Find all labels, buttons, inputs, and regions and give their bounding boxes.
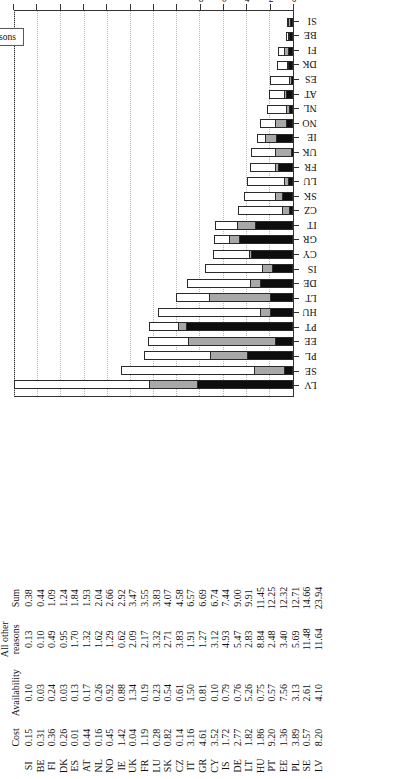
bar-segment-availability	[179, 323, 187, 330]
x-axis-label-se: SE	[302, 364, 317, 379]
table-row: IE1.420.880.622.92	[116, 581, 128, 779]
cell-country: DE	[232, 753, 244, 779]
bar-segment-cost	[291, 19, 292, 26]
header-sum: Sum	[0, 581, 23, 616]
x-axis-tick	[294, 364, 299, 379]
stacked-bar[interactable]	[247, 177, 293, 186]
y-axis-tick-label: 2	[268, 0, 273, 4]
stacked-bar[interactable]	[286, 32, 293, 41]
table-row: IT3.161.501.916.57	[185, 581, 197, 779]
stacked-bar[interactable]	[269, 90, 293, 99]
bar-segment-all-other-reasons	[271, 77, 290, 84]
bar-segment-all-other-reasons	[252, 149, 276, 156]
stacked-bar[interactable]	[214, 235, 293, 244]
cell-cost: 0.26	[58, 722, 70, 752]
stacked-bar[interactable]	[278, 47, 293, 56]
stacked-bar[interactable]	[14, 380, 293, 389]
stacked-bar[interactable]	[158, 308, 293, 317]
cell-cost: 0.01	[69, 722, 81, 752]
cell-availability: 7.56	[278, 663, 290, 722]
bar-slot	[15, 218, 293, 233]
x-axis-label-lu: LU	[302, 174, 317, 189]
bar-segment-all-other-reasons	[177, 294, 210, 301]
x-axis-label-text: SE	[302, 366, 317, 377]
y-axis-tick-label: 24	[9, 0, 19, 1]
bar-segment-cost	[248, 352, 292, 359]
header-cost: Cost	[0, 722, 23, 752]
legend-label: All other reasons	[0, 32, 16, 42]
stacked-bar[interactable]	[149, 322, 293, 331]
stacked-bar[interactable]	[176, 293, 293, 302]
stacked-bar[interactable]	[287, 18, 293, 27]
x-axis-label-text: CY	[302, 249, 317, 260]
bar-segment-availability	[276, 149, 292, 156]
x-axis-label-no: NO	[302, 116, 317, 131]
bar-segment-all-other-reasons	[145, 352, 211, 359]
bar-series-container	[15, 11, 293, 396]
cell-sum: 23.94	[313, 581, 325, 616]
y-axis-tick-label: 18	[79, 0, 89, 1]
stacked-bar[interactable]	[260, 119, 293, 128]
cell-sum: 7.44	[220, 581, 232, 616]
bar-slot	[15, 378, 293, 393]
legend-item[interactable]: All other reasons	[0, 32, 16, 42]
table-row: LU0.280.233.323.83	[151, 581, 163, 779]
stacked-bar[interactable]	[148, 337, 293, 346]
bar-segment-cost	[287, 91, 292, 98]
cell-sum: 9.00	[232, 581, 244, 616]
stacked-bar[interactable]	[270, 76, 293, 85]
cell-sum: 4.58	[174, 581, 186, 616]
cell-all-other-reasons: 2.83	[243, 615, 255, 663]
cell-all-other-reasons: 3.83	[174, 615, 186, 663]
bar-segment-all-other-reasons	[15, 381, 150, 388]
stacked-bar[interactable]	[251, 148, 293, 157]
y-axis-tick-label: 10	[173, 0, 183, 1]
x-axis-label-pl: PL	[302, 349, 317, 364]
cell-availability: 0.24	[46, 663, 58, 722]
cell-country: PL	[290, 753, 302, 779]
cell-country: EE	[278, 753, 290, 779]
bar-slot	[15, 160, 293, 175]
bar-segment-cost	[290, 33, 292, 40]
cell-availability: 0.88	[116, 663, 128, 722]
x-axis-label-pt: PT	[302, 320, 317, 335]
table-row: EE1.367.563.4012.32	[278, 581, 290, 779]
x-axis-label-uk: UK	[302, 145, 317, 160]
stacked-bar[interactable]	[250, 163, 293, 172]
stacked-bar[interactable]	[257, 134, 293, 143]
x-axis-tick	[294, 262, 299, 277]
bar-slot	[15, 320, 293, 335]
header-all-other-reasons: All other reasons	[0, 615, 23, 663]
cell-cost: 0.44	[81, 722, 93, 752]
stacked-bar[interactable]	[238, 206, 293, 215]
table-row: NL0.160.261.622.04	[93, 581, 105, 779]
x-axis-label-is: IS	[302, 262, 317, 277]
bar-slot	[15, 30, 293, 45]
x-axis-label-cz: CZ	[302, 203, 317, 218]
y-axis-tick-label: 0	[292, 0, 297, 4]
bar-segment-availability	[150, 381, 198, 388]
stacked-bar[interactable]	[213, 250, 293, 259]
cell-cost: 0.36	[46, 722, 58, 752]
y-axis-tick	[60, 4, 61, 10]
bar-slot	[15, 59, 293, 74]
stacked-bar[interactable]	[215, 221, 293, 230]
stacked-bar[interactable]	[205, 264, 293, 273]
stacked-bar[interactable]	[267, 105, 293, 114]
table-row: ES0.010.131.701.84	[69, 581, 81, 779]
stacked-bar[interactable]	[244, 192, 293, 201]
y-axis-tick	[130, 4, 131, 10]
bar-slot	[15, 131, 293, 146]
stacked-bar[interactable]	[187, 279, 293, 288]
cell-availability: 1.34	[127, 663, 139, 722]
stacked-bar[interactable]	[121, 366, 293, 375]
x-axis-label-text: BE	[302, 30, 317, 41]
cell-availability: 1.50	[185, 663, 197, 722]
table-row: CY3.520.103.126.74	[209, 581, 221, 779]
bar-slot	[15, 291, 293, 306]
stacked-bar[interactable]	[144, 351, 293, 360]
stacked-bar[interactable]	[277, 61, 293, 70]
bar-segment-all-other-reasons	[215, 236, 230, 243]
y-axis-tick	[176, 4, 177, 10]
cell-cost: 8.20	[313, 722, 325, 752]
